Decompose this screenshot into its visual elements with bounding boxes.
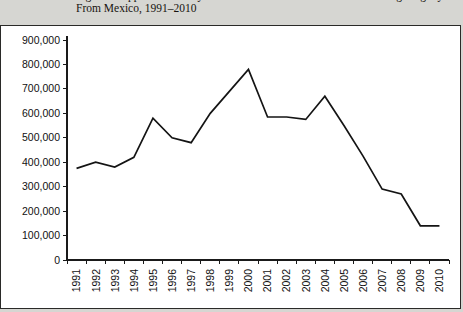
x-tick-label: 1999: [223, 269, 235, 293]
figure-title: Figure 1. Apprehensions by the U.S. Bord…: [0, 0, 463, 25]
x-tick-label: 2010: [433, 269, 445, 293]
x-tick-label: 2007: [376, 269, 388, 293]
y-tick-label: 0: [54, 254, 60, 266]
figure-title-line-2: From Mexico, 1991–2010: [0, 2, 463, 15]
x-tick-label: 2004: [319, 269, 331, 293]
x-tick-label: 2003: [300, 269, 312, 293]
y-tick-label: 700,000: [22, 82, 60, 94]
x-tick-label: 1994: [128, 269, 140, 293]
y-tick-label: 500,000: [22, 131, 60, 143]
x-tick-label: 2001: [261, 269, 273, 293]
y-tick-label: 200,000: [22, 205, 60, 217]
x-tick-label: 1992: [90, 269, 102, 293]
x-tick-label: 1997: [185, 269, 197, 293]
line-chart-plot: 0100,000200,000300,000400,000500,000600,…: [1, 26, 460, 308]
x-tick-label: 1995: [147, 269, 159, 293]
data-series-line: [77, 69, 440, 225]
y-tick-label: 600,000: [22, 107, 60, 119]
y-tick-label: 100,000: [22, 229, 60, 241]
chart-figure: Figure 1. Apprehensions by the U.S. Bord…: [0, 0, 463, 312]
x-tick-label: 2005: [338, 269, 350, 293]
x-tick-label: 2002: [280, 269, 292, 293]
chart-panel: 0100,000200,000300,000400,000500,000600,…: [0, 25, 461, 309]
y-tick-label: 400,000: [22, 156, 60, 168]
x-tick-label: 2000: [242, 269, 254, 293]
x-tick-label: 2008: [395, 269, 407, 293]
y-tick-label: 300,000: [22, 180, 60, 192]
x-tick-label: 1993: [109, 269, 121, 293]
x-tick-label: 1998: [204, 269, 216, 293]
x-tick-label: 1996: [166, 269, 178, 293]
y-tick-label: 800,000: [22, 58, 60, 70]
y-tick-label: 900,000: [22, 34, 60, 46]
x-tick-label: 2009: [414, 269, 426, 293]
x-tick-label: 2006: [357, 269, 369, 293]
x-tick-label: 1991: [70, 269, 82, 293]
